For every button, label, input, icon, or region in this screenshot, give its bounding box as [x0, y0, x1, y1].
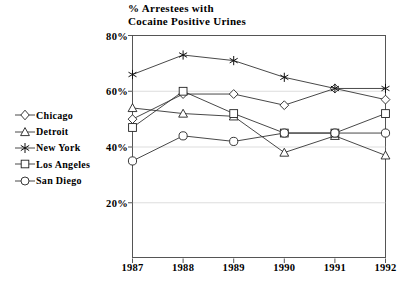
y-tick-label: 20%	[88, 197, 128, 208]
circle-marker-icon	[381, 129, 389, 137]
chart-root: % Arrestees with Cocaine Positive Urines…	[0, 0, 410, 295]
series-line	[133, 55, 386, 88]
circle-marker-icon	[128, 157, 136, 165]
diamond-marker-icon	[280, 101, 289, 110]
x-tick-label: 1992	[363, 262, 409, 273]
series-new-york	[128, 50, 389, 93]
diamond-marker-icon	[128, 115, 137, 124]
x-tick-label: 1991	[312, 262, 358, 273]
circle-marker-icon	[280, 129, 288, 137]
series-chicago	[128, 84, 390, 123]
y-tick-label: 60%	[88, 86, 128, 97]
y-tick-label: 80%	[88, 30, 128, 41]
series-line	[133, 108, 386, 155]
square-marker-icon	[179, 87, 187, 95]
star-marker-icon	[128, 70, 136, 79]
y-axis-ticks: 20%40%60%80%	[86, 0, 128, 295]
star-marker-icon	[280, 73, 288, 82]
square-marker-icon	[129, 124, 137, 132]
x-tick-label: 1990	[261, 262, 307, 273]
circle-marker-icon	[230, 137, 238, 145]
circle-marker-icon	[331, 129, 339, 137]
y-tick-label: 40%	[88, 142, 128, 153]
series-detroit	[128, 104, 390, 159]
triangle-marker-icon	[128, 104, 137, 112]
x-tick-label: 1987	[110, 262, 156, 273]
series-line	[133, 88, 386, 119]
x-tick-label: 1989	[211, 262, 257, 273]
circle-marker-icon	[179, 132, 187, 140]
square-marker-icon	[382, 110, 390, 118]
chart-plot	[0, 0, 410, 295]
diamond-marker-icon	[381, 95, 390, 104]
square-marker-icon	[230, 110, 238, 118]
triangle-marker-icon	[381, 151, 390, 159]
x-tick-label: 1988	[160, 262, 206, 273]
triangle-marker-icon	[280, 148, 289, 156]
